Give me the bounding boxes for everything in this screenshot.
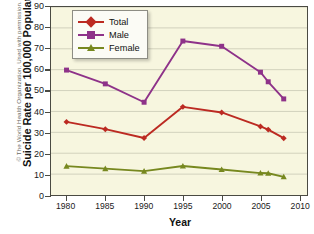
y-tick-label: 20 xyxy=(14,149,44,158)
x-tick-mark xyxy=(66,196,67,201)
chart-figure: © The World Health Organization. Used wi… xyxy=(0,0,314,234)
x-tick-mark xyxy=(300,196,301,201)
x-axis-label: Year xyxy=(50,216,310,228)
y-tick-label: 50 xyxy=(14,86,44,95)
x-tick-label: 1995 xyxy=(163,201,203,211)
x-tick-mark xyxy=(183,196,184,201)
x-tick-label: 1980 xyxy=(46,201,86,211)
data-point-male xyxy=(219,44,224,49)
legend-item-female: Female xyxy=(78,41,140,54)
data-point-total xyxy=(64,119,70,125)
data-point-total xyxy=(257,124,263,130)
legend-swatch-icon xyxy=(78,42,104,53)
x-tick-mark xyxy=(105,196,106,201)
chart-legend: TotalMaleFemale xyxy=(72,10,148,59)
data-point-male xyxy=(103,81,108,86)
legend-swatch-icon xyxy=(78,29,104,40)
y-tick-label: 10 xyxy=(14,170,44,179)
x-tick-mark xyxy=(222,196,223,201)
x-tick-label: 2010 xyxy=(280,201,314,211)
data-point-male xyxy=(258,70,263,75)
x-tick-label: 1985 xyxy=(85,201,125,211)
y-tick-label: 90 xyxy=(14,2,44,11)
y-tick-label: 80 xyxy=(14,23,44,32)
data-point-male xyxy=(266,79,271,84)
x-tick-mark xyxy=(261,196,262,201)
data-point-total xyxy=(102,126,108,132)
y-tick-label: 70 xyxy=(14,44,44,53)
data-point-male xyxy=(64,68,69,73)
x-tick-mark xyxy=(144,196,145,201)
x-tick-label: 1990 xyxy=(124,201,164,211)
series-line-female xyxy=(67,166,284,177)
legend-label: Female xyxy=(109,43,140,53)
legend-swatch-icon xyxy=(78,16,104,27)
legend-label: Male xyxy=(109,30,129,40)
data-point-male xyxy=(142,100,147,105)
data-point-total xyxy=(219,110,225,116)
data-point-male xyxy=(180,39,185,44)
legend-item-total: Total xyxy=(78,15,140,28)
x-tick-label: 2005 xyxy=(241,201,281,211)
legend-label: Total xyxy=(109,17,128,27)
y-tick-label: 60 xyxy=(14,65,44,74)
y-tick-label: 30 xyxy=(14,128,44,137)
x-tick-label: 2000 xyxy=(202,201,242,211)
y-tick-label: 0 xyxy=(14,192,44,201)
y-tick-label: 40 xyxy=(14,107,44,116)
legend-item-male: Male xyxy=(78,28,140,41)
data-point-male xyxy=(281,96,286,101)
